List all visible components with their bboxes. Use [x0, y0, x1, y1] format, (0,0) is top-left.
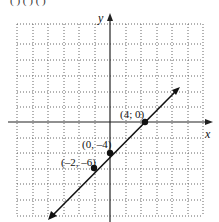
point-label-neg2-neg6: (–2, –6): [61, 157, 96, 168]
y-axis-label: y: [98, 12, 103, 24]
point-label-0-neg4: (0, –4): [82, 139, 111, 150]
x-axis-arrow-icon: [205, 119, 213, 125]
point-label-4-0: (4; 0): [120, 109, 144, 120]
y-axis-arrow-icon: [107, 13, 113, 21]
point-0-neg4: [107, 150, 113, 156]
coordinate-plane: [0, 0, 219, 222]
x-axis-label: x: [205, 128, 210, 140]
axes: [8, 16, 210, 222]
